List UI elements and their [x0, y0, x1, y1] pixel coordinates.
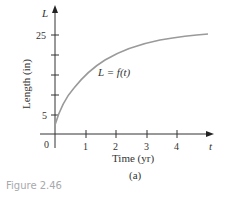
y-var-label: L: [41, 7, 48, 19]
y-tick-label-25: 25: [36, 30, 46, 41]
figure-caption: Figure 2.46: [6, 180, 62, 191]
x-tick-label-1: 1: [83, 141, 88, 152]
x-axis-title: Time (yr): [112, 152, 154, 165]
y-axis-title: Length (in): [20, 59, 33, 109]
x-axis-arrow-icon: [206, 131, 214, 137]
y-tick-label-5: 5: [42, 110, 47, 121]
curve-label: L = f(t): [97, 66, 131, 79]
x-tick-label-2: 2: [113, 141, 118, 152]
x-var-label: t: [209, 140, 213, 152]
chart: L 25 5 0 1 2 3 4 t Time (yr) (a) Length …: [0, 0, 230, 198]
origin-label: 0: [44, 139, 49, 150]
curve-L-f-t: [55, 34, 208, 125]
y-axis-arrow-icon: [52, 5, 58, 13]
x-tick-label-3: 3: [144, 141, 149, 152]
x-tick-label-4: 4: [174, 141, 179, 152]
panel-label: (a): [129, 169, 142, 182]
